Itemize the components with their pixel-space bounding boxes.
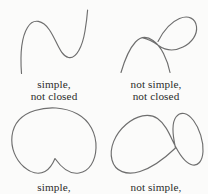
caption-bottom-left-line1: simple, — [6, 181, 102, 193]
s-curve-path — [21, 10, 88, 74]
looped-curve-path — [121, 17, 197, 72]
caption-bottom-right-line1: not simple, — [108, 181, 204, 193]
caption-top-right-line2: not closed — [108, 90, 204, 102]
bean-curve-path — [12, 108, 96, 173]
caption-top-left-line1: simple, — [6, 78, 102, 90]
caption-top-left: simple, not closed — [6, 78, 102, 103]
caption-bottom-left: simple, — [6, 181, 102, 193]
caption-top-left-line2: not closed — [6, 90, 102, 102]
caption-bottom-right: not simple, — [108, 181, 204, 193]
caption-top-right: not simple, not closed — [108, 78, 204, 103]
curve-classification-figure: simple, not closed not simple, not close… — [0, 0, 208, 194]
figure-eight-curve-path — [111, 113, 203, 173]
caption-top-right-line1: not simple, — [108, 78, 204, 90]
